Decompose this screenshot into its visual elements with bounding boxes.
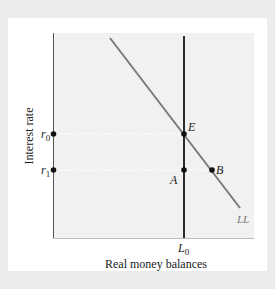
point-a-label: A [169, 173, 178, 187]
r0-point [51, 131, 57, 137]
y-axis-title: Interest rate [22, 108, 36, 165]
ll-curve-label: LL [236, 213, 249, 225]
r1-label: r1 [41, 163, 50, 179]
point-b [209, 167, 215, 173]
point-a [181, 167, 187, 173]
point-e-label: E [187, 120, 196, 134]
l0-label: L0 [177, 241, 190, 257]
x-axis-title: Real money balances [105, 257, 207, 271]
r0-label: r0 [41, 127, 51, 143]
r1-point [51, 167, 57, 173]
point-e [181, 131, 187, 137]
plot-area [53, 33, 254, 238]
chart: r0 r1 E A B LL L0 Real money balances In… [0, 0, 275, 289]
point-b-label: B [216, 163, 224, 177]
